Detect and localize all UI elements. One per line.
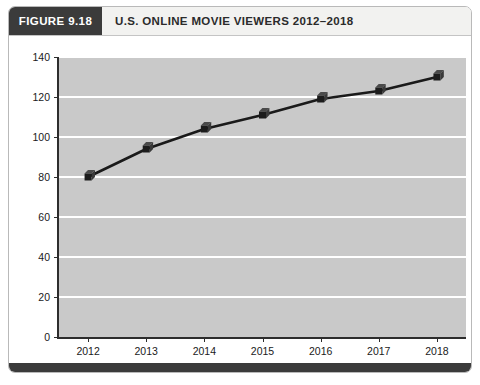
x-tick-mark xyxy=(321,337,322,342)
plot-area: 020406080100120140 201220132014201520162… xyxy=(57,57,466,339)
data-point-marker xyxy=(317,92,327,102)
x-tick-label: 2013 xyxy=(116,345,176,357)
x-tick-label: 2018 xyxy=(407,345,467,357)
data-point-marker xyxy=(433,70,443,80)
y-tick-label: 140 xyxy=(12,51,50,63)
x-tick-label: 2016 xyxy=(291,345,351,357)
y-tick-label: 120 xyxy=(12,91,50,103)
data-point-marker xyxy=(201,122,211,132)
y-tick-label: 80 xyxy=(12,171,50,183)
figure-footer-bar xyxy=(9,363,471,372)
x-tick-mark xyxy=(204,337,205,342)
x-tick-mark xyxy=(437,337,438,342)
y-tick-label: 60 xyxy=(12,211,50,223)
x-tick-mark xyxy=(88,337,89,342)
x-tick-label: 2012 xyxy=(58,345,118,357)
chart-area: 020406080100120140 201220132014201520162… xyxy=(9,36,471,360)
y-tick-label: 40 xyxy=(12,251,50,263)
x-tick-mark xyxy=(146,337,147,342)
figure-container: FIGURE 9.18 U.S. ONLINE MOVIE VIEWERS 20… xyxy=(8,6,472,373)
figure-header: FIGURE 9.18 U.S. ONLINE MOVIE VIEWERS 20… xyxy=(9,7,471,36)
y-tick-label: 20 xyxy=(12,291,50,303)
x-tick-mark xyxy=(263,337,264,342)
y-tick-label: 0 xyxy=(12,331,50,343)
x-tick-label: 2015 xyxy=(233,345,293,357)
x-tick-label: 2014 xyxy=(174,345,234,357)
data-series-line xyxy=(59,57,466,337)
x-tick-label: 2017 xyxy=(349,345,409,357)
data-point-marker xyxy=(85,170,95,180)
data-point-marker xyxy=(143,142,153,152)
data-point-marker xyxy=(259,108,269,118)
figure-number-label: FIGURE 9.18 xyxy=(9,7,102,35)
x-tick-mark xyxy=(379,337,380,342)
y-tick-mark xyxy=(54,337,59,338)
figure-title: U.S. ONLINE MOVIE VIEWERS 2012–2018 xyxy=(102,7,471,35)
y-tick-label: 100 xyxy=(12,131,50,143)
data-point-marker xyxy=(375,84,385,94)
